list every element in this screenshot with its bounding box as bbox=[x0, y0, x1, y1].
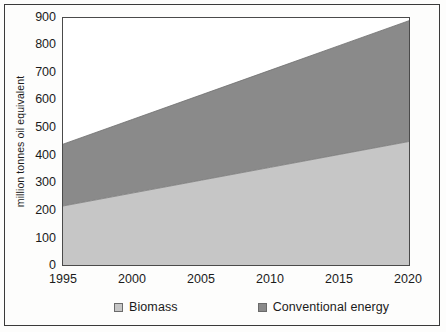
x-tick-2010: 2010 bbox=[240, 272, 300, 286]
chart-legend: Biomass Conventional energy bbox=[62, 298, 410, 316]
x-tick-2020: 2020 bbox=[378, 272, 438, 286]
y-tick-500: 500 bbox=[22, 121, 56, 133]
x-tick-2015: 2015 bbox=[309, 272, 369, 286]
legend-item-conventional-energy: Conventional energy bbox=[258, 300, 390, 314]
y-tick-100: 100 bbox=[22, 232, 56, 244]
legend-item-biomass: Biomass bbox=[114, 300, 178, 314]
y-tick-400: 400 bbox=[22, 149, 56, 161]
y-tick-700: 700 bbox=[22, 66, 56, 78]
x-tick-2005: 2005 bbox=[171, 272, 231, 286]
stacked-area-svg bbox=[63, 18, 409, 265]
legend-swatch-biomass bbox=[114, 303, 123, 312]
legend-swatch-conventional-energy bbox=[258, 303, 267, 312]
y-tick-200: 200 bbox=[22, 204, 56, 216]
legend-label-biomass: Biomass bbox=[129, 300, 178, 314]
plot-area bbox=[62, 17, 410, 266]
legend-label-conventional-energy: Conventional energy bbox=[273, 300, 390, 314]
y-tick-900: 900 bbox=[22, 11, 56, 23]
x-axis-tick-labels: 1995 2000 2005 2010 2015 2020 bbox=[0, 272, 446, 288]
x-tick-1995: 1995 bbox=[33, 272, 93, 286]
chart-figure: million tonnes oil equivalent 900 800 70… bbox=[0, 0, 446, 332]
y-tick-800: 800 bbox=[22, 38, 56, 50]
y-tick-300: 300 bbox=[22, 176, 56, 188]
y-tick-0: 0 bbox=[22, 259, 56, 271]
y-tick-600: 600 bbox=[22, 93, 56, 105]
x-tick-2000: 2000 bbox=[102, 272, 162, 286]
